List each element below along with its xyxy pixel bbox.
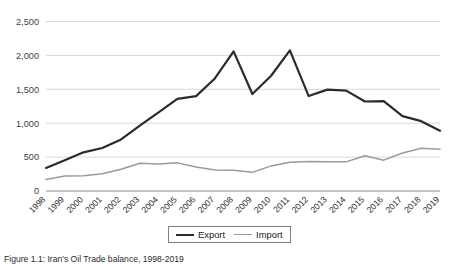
x-axis-tick-label: 2008: [214, 194, 235, 215]
x-axis-tick-label: 2009: [233, 194, 254, 215]
x-axis-tick-label: 2017: [383, 194, 404, 215]
y-axis-tick-label: 2,500: [16, 17, 39, 27]
x-axis-tick-label: 2014: [327, 194, 348, 215]
x-axis-tick-label: 2013: [308, 194, 329, 215]
chart-canvas: 05001,0001,5002,0002,5001998199920002001…: [0, 0, 451, 240]
x-axis-tick-label: 1999: [46, 194, 67, 215]
series-line-export: [46, 50, 440, 168]
y-axis-tick-label: 0: [34, 186, 39, 196]
legend-item-export: Export: [176, 229, 225, 240]
legend-label-export: Export: [198, 229, 225, 240]
legend-item-import: Import: [234, 229, 283, 240]
x-axis-tick-label: 2006: [177, 194, 198, 215]
x-axis-tick-label: 2003: [121, 194, 142, 215]
x-axis-tick-label: 2019: [421, 194, 442, 215]
y-axis-tick-label: 2,000: [16, 51, 39, 61]
y-axis-tick-label: 1,500: [16, 85, 39, 95]
x-axis-tick-label: 2016: [365, 194, 386, 215]
x-axis-tick-label: 2000: [64, 194, 85, 215]
x-axis-tick-label: 2004: [139, 194, 160, 215]
y-axis-tick-label: 500: [24, 152, 39, 162]
line-chart: 05001,0001,5002,0002,5001998199920002001…: [0, 0, 451, 240]
figure-caption: Figure 1.1: Iran's Oil Trade balance, 19…: [4, 254, 444, 264]
x-axis-tick-label: 2007: [196, 194, 217, 215]
x-axis-tick-label: 2002: [102, 194, 123, 215]
x-axis-tick-label: 2012: [289, 194, 310, 215]
x-axis-tick-label: 2005: [158, 194, 179, 215]
legend-swatch-import-icon: [234, 234, 252, 235]
y-axis-tick-label: 1,000: [16, 119, 39, 129]
x-axis-tick-label: 2010: [252, 194, 273, 215]
x-axis-tick-label: 2011: [271, 194, 291, 214]
legend-swatch-export-icon: [176, 234, 194, 236]
legend-label-import: Import: [256, 229, 283, 240]
x-axis-tick-label: 1998: [27, 194, 48, 215]
x-axis-tick-label: 2015: [346, 194, 367, 215]
figure-container: 05001,0001,5002,0002,5001998199920002001…: [0, 0, 451, 264]
x-axis-tick-label: 2001: [83, 194, 104, 215]
x-axis-tick-label: 2018: [402, 194, 423, 215]
chart-legend: Export Import: [168, 226, 291, 243]
series-line-import: [46, 148, 440, 179]
